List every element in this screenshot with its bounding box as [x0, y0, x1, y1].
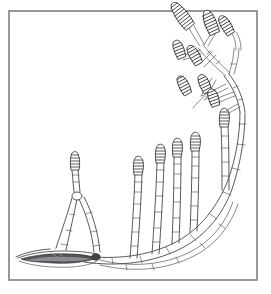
strobilus-10 — [133, 156, 143, 175]
strobilus-14 — [219, 108, 229, 127]
branch-node — [72, 192, 82, 200]
strobilus-12 — [172, 138, 182, 157]
illustration-plate: Fossil plant reconstruction line drawing… — [0, 0, 271, 294]
strobilus-11 — [155, 144, 165, 163]
plate-border — [9, 11, 257, 280]
strobilus-13 — [190, 132, 200, 151]
strobilus-9 — [70, 152, 79, 170]
plant-drawing-svg — [0, 0, 271, 294]
